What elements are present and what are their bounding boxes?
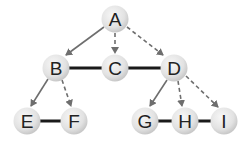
node-d: D [161, 55, 188, 82]
arrow-a-b [66, 27, 104, 55]
node-e: E [14, 108, 41, 135]
arrow-d-i [186, 76, 218, 107]
node-label-g: G [138, 111, 153, 132]
graph-diagram: A B C D E F G H I [0, 0, 243, 142]
node-a: A [102, 6, 129, 33]
arrow-d-h [178, 81, 182, 106]
node-label-a: A [109, 9, 122, 30]
node-b: B [43, 55, 70, 82]
arrow-d-g [150, 80, 167, 106]
node-label-i: I [221, 111, 226, 132]
node-label-f: F [68, 111, 80, 132]
node-label-e: E [21, 111, 34, 132]
node-label-c: C [108, 58, 122, 79]
node-f: F [61, 108, 88, 135]
node-h: H [172, 108, 199, 135]
node-label-b: B [50, 58, 63, 79]
arrow-a-d [127, 27, 163, 55]
node-label-h: H [178, 111, 192, 132]
arrow-b-e [31, 79, 48, 106]
node-label-d: D [167, 58, 181, 79]
node-g: G [132, 108, 159, 135]
node-i: I [211, 108, 238, 135]
node-c: C [102, 55, 129, 82]
arrow-b-f [62, 80, 71, 106]
